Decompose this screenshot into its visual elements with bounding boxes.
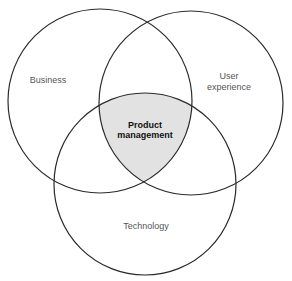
- label-product: Product: [128, 120, 162, 130]
- label-business: Business: [30, 75, 67, 85]
- label-user: User: [219, 71, 238, 81]
- label-experience: experience: [207, 82, 251, 92]
- label-management: management: [117, 130, 173, 140]
- label-technology: Technology: [123, 221, 169, 231]
- venn-diagram: Business User experience Technology Prod…: [0, 0, 292, 281]
